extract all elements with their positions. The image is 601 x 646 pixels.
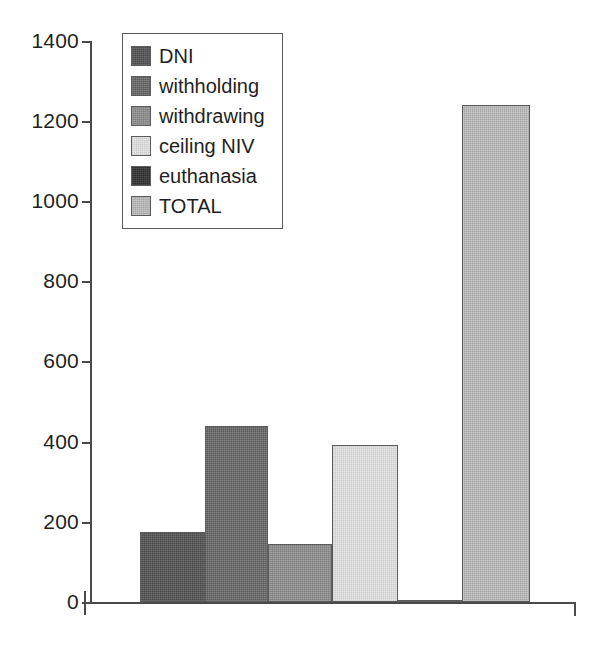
y-tick-mark (82, 121, 91, 123)
bar-dni (140, 532, 205, 602)
legend-item: withdrawing (131, 101, 282, 131)
y-tick-mark (82, 281, 91, 283)
y-tick-label: 1200 (17, 110, 79, 131)
legend-item: withholding (131, 71, 282, 101)
y-tick-mark (82, 361, 91, 363)
legend-item-label: euthanasia (159, 166, 257, 186)
y-tick-label: 0 (17, 591, 79, 612)
legend-box: DNIwithholdingwithdrawingceiling NIVeuth… (122, 33, 283, 229)
y-tick-mark (82, 201, 91, 203)
legend-swatch-icon (131, 136, 151, 156)
plot-area: 1400120010008006004002000 (0, 0, 601, 646)
bar-total (462, 105, 530, 602)
bar-ceiling-niv (332, 445, 398, 602)
x-axis-end-tick (574, 602, 576, 616)
y-axis-line (90, 41, 92, 604)
legend-item-label: DNI (159, 46, 193, 66)
legend-swatch-icon (131, 76, 151, 96)
legend-swatch-icon (131, 196, 151, 216)
legend-item: DNI (131, 41, 282, 71)
x-axis-line (90, 602, 575, 604)
legend-item: ceiling NIV (131, 131, 282, 161)
y-tick-mark (82, 41, 91, 43)
y-tick-label: 1400 (17, 30, 79, 51)
bar-euthanasia (398, 600, 462, 602)
legend-swatch-icon (131, 106, 151, 126)
legend-item: TOTAL (131, 191, 282, 221)
legend-item-label: ceiling NIV (159, 136, 255, 156)
y-tick-mark (82, 522, 91, 524)
y-tick-mark (82, 442, 91, 444)
bar-withholding (205, 426, 268, 602)
y-tick-label: 1000 (17, 190, 79, 211)
legend-item-label: withdrawing (159, 106, 265, 126)
y-tick-label: 600 (17, 350, 79, 371)
y-tick-label: 800 (17, 270, 79, 291)
bar-chart-figure: 1400120010008006004002000 DNIwithholding… (0, 0, 601, 646)
bar-withdrawing (268, 544, 332, 602)
legend-item-label: withholding (159, 76, 259, 96)
y-tick-label: 400 (17, 431, 79, 452)
legend-item: euthanasia (131, 161, 282, 191)
legend-swatch-icon (131, 166, 151, 186)
y-tick-label: 200 (17, 511, 79, 532)
legend-item-label: TOTAL (159, 196, 222, 216)
y-tick-mark (82, 602, 91, 604)
legend-swatch-icon (131, 46, 151, 66)
